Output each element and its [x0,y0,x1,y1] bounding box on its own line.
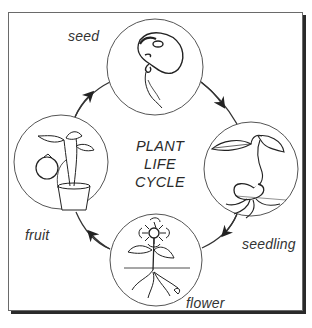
stage-seedling [204,122,298,218]
arrow-fruit-to-seed [75,82,110,117]
arrow-seed-to-seedling [201,82,237,124]
arrow-seedling-to-flower [202,214,237,248]
arrow-flower-to-fruit [76,212,110,249]
title-line-1: PLANT [118,137,202,155]
stage-seed [107,19,203,115]
title-line-2: LIFE [118,155,202,173]
stage-fruit [14,115,108,210]
label-flower: flower [186,295,225,311]
title-line-3: CYCLE [118,173,202,191]
stage-flower [110,214,202,306]
label-seedling: seedling [242,236,296,252]
diagram-title: PLANT LIFE CYCLE [118,137,202,191]
label-seed: seed [68,28,99,44]
label-fruit: fruit [25,227,49,243]
